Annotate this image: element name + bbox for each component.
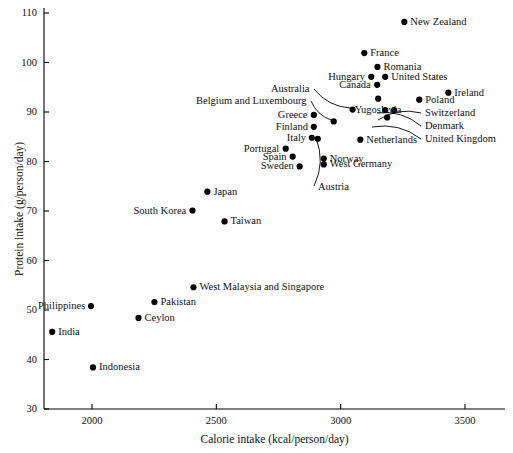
data-point[interactable] [88, 303, 94, 309]
data-point-label: France [370, 48, 399, 59]
x-axis-tick-label: 2000 [52, 416, 132, 427]
data-point-label: Japan [213, 187, 237, 198]
data-point-label: Belgium and Luxembourg [196, 96, 307, 107]
data-point[interactable] [204, 189, 210, 195]
data-point[interactable] [290, 153, 296, 159]
data-point-label: United Kingdom [425, 134, 496, 145]
data-point-label: United States [391, 72, 447, 83]
leader-line [314, 138, 320, 186]
data-point[interactable] [321, 155, 327, 161]
y-axis-tick-label: 90 [0, 107, 37, 118]
data-point[interactable] [357, 137, 363, 143]
data-point[interactable] [401, 19, 407, 25]
data-point[interactable] [361, 50, 367, 56]
data-point-label: Greece [278, 110, 308, 121]
data-point-label: New Zealand [410, 17, 466, 28]
data-point[interactable] [309, 135, 315, 141]
data-point-label: Yugoslavia [355, 105, 402, 116]
data-point-label: Pakistan [160, 297, 196, 308]
data-point-label: Indonesia [99, 362, 140, 373]
data-point-label: Denmark [425, 121, 464, 132]
data-point[interactable] [416, 97, 422, 103]
data-point[interactable] [190, 284, 196, 290]
data-point-label: Taiwan [231, 216, 262, 227]
data-point-label: Ireland [454, 88, 484, 99]
data-point[interactable] [311, 112, 317, 118]
data-point[interactable] [311, 124, 317, 130]
data-point[interactable] [49, 329, 55, 335]
data-point[interactable] [374, 82, 380, 88]
y-axis-tick-label: 30 [0, 404, 37, 415]
data-point-label: Philippines [38, 301, 85, 312]
leader-line [314, 89, 350, 108]
data-point-label: Finland [276, 122, 308, 133]
data-point[interactable] [382, 74, 388, 80]
data-point[interactable] [135, 315, 141, 321]
data-point-label: Canada [339, 80, 371, 91]
data-point[interactable] [375, 96, 381, 102]
scatter-plot: New ZealandFranceRomaniaHungaryUnited St… [0, 0, 513, 453]
data-point[interactable] [90, 364, 96, 370]
y-axis-tick-label: 50 [0, 305, 37, 316]
data-point[interactable] [374, 64, 380, 70]
data-point[interactable] [384, 114, 390, 120]
x-axis-tick-label: 3000 [301, 416, 381, 427]
data-point[interactable] [189, 207, 195, 213]
data-point-label: Switzerland [425, 108, 475, 119]
data-point-label: Austria [318, 182, 349, 193]
data-point-label: West Malaysia and Singapore [199, 282, 324, 293]
data-point[interactable] [221, 218, 227, 224]
y-axis-title: Protein intake (g/person/day) [14, 141, 26, 275]
y-axis-tick-label: 110 [0, 8, 37, 19]
data-point[interactable] [331, 118, 337, 124]
data-point[interactable] [315, 136, 321, 142]
data-point-label: Poland [425, 95, 454, 106]
data-point-label: India [58, 327, 80, 338]
y-axis-tick-label: 40 [0, 355, 37, 366]
data-point-label: West Germany [330, 159, 392, 170]
data-point[interactable] [297, 163, 303, 169]
data-point-label: Italy [287, 133, 306, 144]
x-axis-title: Calorie intake (kcal/person/day) [201, 434, 349, 446]
data-point-label: Australia [271, 84, 310, 95]
data-point-label: Sweden [261, 161, 294, 172]
x-axis-tick-label: 3500 [425, 416, 505, 427]
data-point-label: Netherlands [366, 135, 417, 146]
data-point[interactable] [321, 161, 327, 167]
y-axis-tick-label: 100 [0, 58, 37, 69]
x-axis-tick-label: 2500 [176, 416, 256, 427]
data-point-label: Ceylon [145, 313, 175, 324]
data-point-label: South Korea [133, 206, 186, 217]
data-point[interactable] [151, 299, 157, 305]
